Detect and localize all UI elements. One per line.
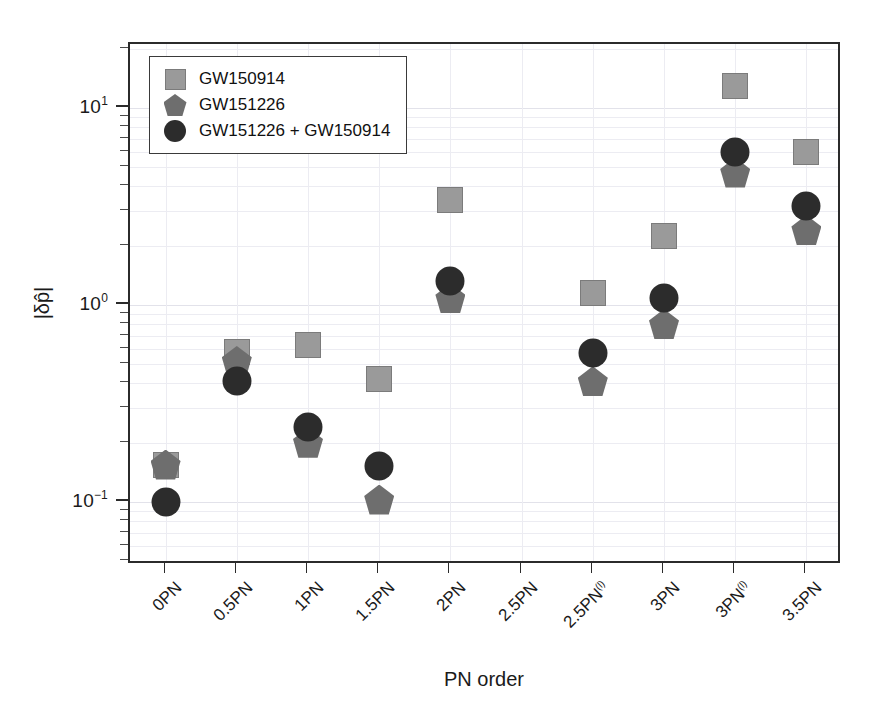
square-marker [437, 187, 463, 213]
square-marker [580, 280, 606, 306]
y-axis-tick-label: 101 [80, 94, 108, 117]
x-axis-tick [520, 563, 521, 573]
square-marker [793, 139, 819, 165]
circle-marker [294, 413, 323, 442]
x-axis-tick-label: 2PN [433, 578, 471, 616]
x-axis-tick [591, 563, 592, 573]
x-axis-tick [235, 563, 236, 573]
x-axis-tick-label: 0.5PN [209, 578, 257, 626]
x-axis-tick-label: 3PN [647, 578, 685, 616]
x-axis-tick-label: 3.5PN [779, 578, 827, 626]
x-axis-tick-label: 2.5PN(l) [559, 578, 613, 632]
circle-marker [365, 452, 394, 481]
legend-item[interactable]: GW151226 + GW150914 [161, 118, 390, 144]
legend-item-label: GW150914 [199, 69, 285, 89]
circle-marker [222, 367, 251, 396]
gridline-horizontal [130, 561, 838, 562]
x-axis-tick [804, 563, 805, 573]
x-axis-tick-label: 2.5PN [494, 578, 542, 626]
circle-marker [721, 137, 750, 166]
gridline-vertical [806, 44, 807, 561]
circle-marker [650, 284, 679, 313]
circle-marker [792, 191, 821, 220]
square-marker [366, 366, 392, 392]
x-axis-tick-label: 0PN [148, 578, 186, 616]
figure-container: |δp̂| 10110010−1 GW150914 GW151226 GW151… [0, 0, 885, 710]
legend-item[interactable]: GW150914 [161, 66, 390, 92]
y-axis-tick-label: 10−1 [72, 488, 108, 511]
x-axis-tick [448, 563, 449, 573]
legend-item-label: GW151226 [199, 95, 285, 115]
x-axis-tick [733, 563, 734, 573]
x-axis-tick [662, 563, 663, 573]
square-marker [295, 332, 321, 358]
y-axis-tick-label: 100 [80, 291, 108, 314]
circle-marker-icon [161, 120, 189, 142]
x-axis-tick [306, 563, 307, 573]
pentagon-marker [578, 366, 608, 396]
x-axis-tick [164, 563, 165, 573]
x-axis-title: PN order [444, 668, 524, 691]
circle-marker [436, 266, 465, 295]
legend-item-label: GW151226 + GW150914 [199, 121, 390, 141]
gridline-vertical [735, 44, 736, 561]
x-axis-tick-label: 3PN(l) [712, 578, 756, 622]
pentagon-marker-icon [161, 94, 189, 116]
circle-marker [578, 339, 607, 368]
x-axis-tick-label: 1PN [291, 578, 329, 616]
legend-item[interactable]: GW151226 [161, 92, 390, 118]
square-marker [722, 73, 748, 99]
square-marker [651, 223, 677, 249]
x-axis-tick [377, 563, 378, 573]
square-marker-icon [161, 69, 189, 90]
gridline-vertical [522, 44, 523, 561]
circle-marker [151, 488, 180, 517]
legend: GW150914 GW151226 GW151226 + GW150914 [149, 56, 407, 154]
y-axis-title: |δp̂| [31, 287, 54, 320]
pentagon-marker [364, 485, 394, 515]
x-axis-tick-label: 1.5PN [352, 578, 400, 626]
